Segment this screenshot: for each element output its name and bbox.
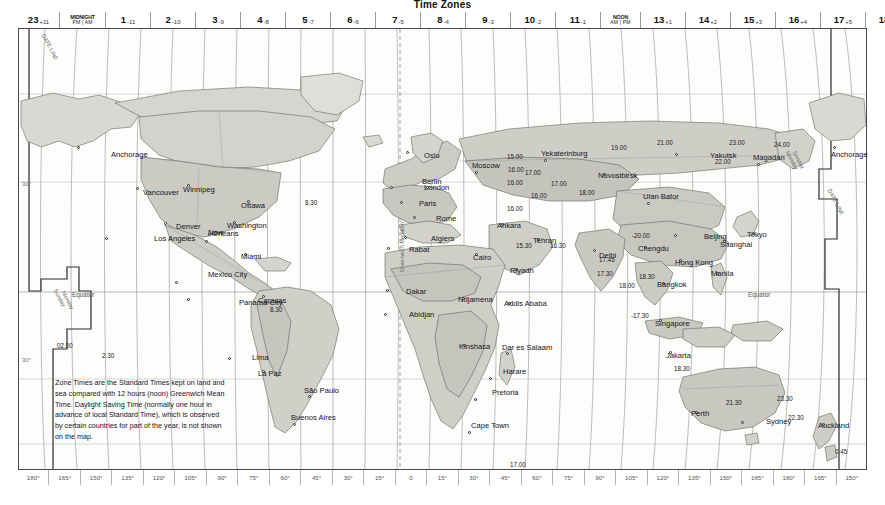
hour-offset: -11 [127, 19, 135, 25]
time-zones-map-page: Time Zones 23+11MIDNIGHTPM | AM1-112-103… [0, 0, 885, 505]
longitude-tick-26: 150° [837, 470, 867, 485]
hour-cell-17[interactable]: 16+4 [776, 12, 821, 28]
hour-cell-0[interactable]: 23+11 [18, 12, 60, 28]
hour-label: 18 [879, 15, 885, 25]
hour-offset: -8 [263, 19, 268, 25]
hour-label: 23 [28, 15, 39, 25]
longitude-tick-8: 60° [270, 470, 301, 485]
hour-cell-6[interactable]: 5-7 [286, 12, 331, 28]
hour-cell-14[interactable]: 13+1 [641, 12, 686, 28]
longitude-tick-12: 0 [396, 470, 427, 485]
longitude-tick-0: 180° [18, 470, 49, 485]
hour-offset: -5 [398, 19, 403, 25]
hour-offset: +5 [845, 19, 852, 25]
hour-cell-16[interactable]: 15+3 [731, 12, 776, 28]
hour-cell-15[interactable]: 14+2 [686, 12, 731, 28]
hour-label: 5 [302, 15, 307, 25]
hour-label: 7 [392, 15, 397, 25]
hour-cell-9[interactable]: 8-4 [421, 12, 466, 28]
hour-offset: +4 [800, 19, 807, 25]
hour-cell-4[interactable]: 3-9 [196, 12, 241, 28]
hour-label: 13 [654, 15, 665, 25]
longitude-tick-20: 120° [648, 470, 679, 485]
hour-label: 17 [834, 15, 845, 25]
longitude-tick-2: 150° [81, 470, 112, 485]
longitude-tick-15: 45° [490, 470, 521, 485]
longitude-tick-24: 180° [774, 470, 805, 485]
hour-label: 15 [744, 15, 755, 25]
midnight-noon-marker: MIDNIGHTPM | AM [70, 15, 95, 25]
hour-cell-7[interactable]: 6-6 [331, 12, 376, 28]
hour-label: 11 [570, 15, 580, 25]
hour-label: 6 [347, 15, 352, 25]
longitude-tick-4: 120° [144, 470, 175, 485]
hour-offset: -6 [353, 19, 358, 25]
hour-label: 3 [212, 15, 217, 25]
longitude-tick-25: 165° [805, 470, 836, 485]
longitude-tick-1: 165° [49, 470, 80, 485]
hour-offset: -4 [443, 19, 448, 25]
longitude-tick-7: 75° [238, 470, 269, 485]
midnight-noon-marker: NOONAM | PM [610, 15, 630, 25]
hour-cell-2[interactable]: 1-11 [106, 12, 151, 28]
hour-offset: +11 [39, 19, 49, 25]
hour-label: 2 [166, 15, 171, 25]
hour-cell-11[interactable]: 10-2 [511, 12, 556, 28]
hour-cell-12[interactable]: 11-1 [556, 12, 601, 28]
hour-label: 14 [699, 15, 710, 25]
hour-offset: -3 [488, 19, 493, 25]
hour-cell-10[interactable]: 9-3 [466, 12, 511, 28]
hour-cell-13[interactable]: NOONAM | PM [601, 12, 641, 28]
longitude-tick-10: 30° [333, 470, 364, 485]
hour-ampm: PM | AM [72, 20, 92, 25]
hour-offset: -2 [536, 19, 541, 25]
hour-label: 16 [789, 15, 800, 25]
hour-cell-1[interactable]: MIDNIGHTPM | AM [60, 12, 106, 28]
hour-label: 9 [482, 15, 487, 25]
longitude-tick-19: 105° [616, 470, 647, 485]
longitude-tick-9: 45° [301, 470, 332, 485]
longitude-tick-5: 105° [175, 470, 206, 485]
hour-offset: -9 [218, 19, 223, 25]
longitude-tick-22: 150° [711, 470, 742, 485]
longitude-tick-23: 165° [742, 470, 773, 485]
longitude-tick-3: 135° [112, 470, 143, 485]
hour-ampm: AM | PM [610, 20, 630, 25]
hour-label: 1 [121, 15, 126, 25]
longitude-tick-17: 75° [553, 470, 584, 485]
hour-offset: +3 [755, 19, 762, 25]
hour-cell-18[interactable]: 17+5 [821, 12, 866, 28]
hour-cell-19[interactable]: 18+6 [866, 12, 885, 28]
hour-label: 10 [525, 15, 536, 25]
hour-offset: -10 [172, 19, 181, 25]
hour-label: 4 [257, 15, 262, 25]
longitude-tick-16: 60° [522, 470, 553, 485]
longitude-axis: 180°165°150°135°120°105°90°75°60°45°30°1… [18, 469, 867, 485]
hour-cell-5[interactable]: 4-8 [241, 12, 286, 28]
hour-offset: -7 [308, 19, 313, 25]
hour-cell-8[interactable]: 7-5 [376, 12, 421, 28]
longitude-tick-21: 135° [679, 470, 710, 485]
hour-offset: +1 [665, 19, 672, 25]
legend-note: Zone Times are the Standard Times kept o… [55, 378, 225, 443]
longitude-tick-14: 30° [459, 470, 490, 485]
hour-cell-3[interactable]: 2-10 [151, 12, 196, 28]
hour-offset: +2 [710, 19, 717, 25]
hour-label: 8 [437, 15, 442, 25]
page-title: Time Zones [0, 0, 885, 10]
hour-offset: -1 [581, 19, 586, 25]
longitude-tick-13: 15° [427, 470, 458, 485]
longitude-tick-6: 90° [207, 470, 238, 485]
hour-axis-header: 23+11MIDNIGHTPM | AM1-112-103-94-85-76-6… [18, 12, 867, 29]
longitude-tick-11: 15° [364, 470, 395, 485]
longitude-tick-18: 90° [585, 470, 616, 485]
